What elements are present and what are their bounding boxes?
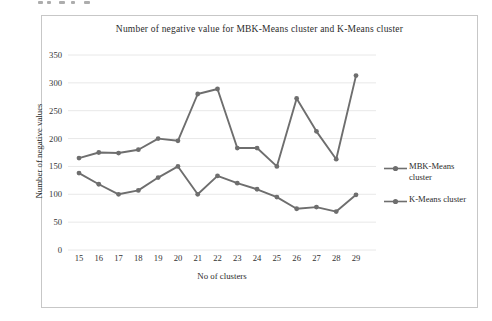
page: 0501001502002503003501516171819202122232…: [0, 0, 492, 321]
svg-text:50: 50: [53, 217, 62, 227]
svg-text:24: 24: [253, 253, 262, 263]
line-marker-icon: [384, 165, 407, 172]
svg-text:26: 26: [292, 253, 301, 263]
line-marker-icon: [384, 198, 407, 205]
svg-text:28: 28: [332, 253, 341, 263]
svg-text:19: 19: [154, 253, 163, 263]
svg-text:150: 150: [49, 161, 62, 171]
svg-text:20: 20: [174, 253, 183, 263]
svg-text:18: 18: [134, 253, 143, 263]
svg-text:17: 17: [114, 253, 123, 263]
svg-text:21: 21: [193, 253, 202, 263]
svg-text:27: 27: [312, 253, 321, 263]
svg-text:22: 22: [213, 253, 222, 263]
svg-text:350: 350: [49, 50, 62, 60]
svg-text:23: 23: [233, 253, 242, 263]
svg-text:200: 200: [49, 134, 62, 144]
chart-legend: MBK-Means cluster K-Means cluster: [384, 161, 478, 216]
svg-text:300: 300: [49, 78, 62, 88]
svg-text:15: 15: [75, 253, 84, 263]
legend-label: K-Means cluster: [409, 194, 477, 205]
svg-text:250: 250: [49, 106, 62, 116]
legend-label: MBK-Means cluster: [409, 161, 477, 183]
y-axis-title: Number of negative values: [34, 86, 44, 216]
svg-text:29: 29: [352, 253, 361, 263]
svg-text:100: 100: [49, 189, 62, 199]
svg-text:16: 16: [94, 253, 103, 263]
x-axis-title: No of clusters: [68, 271, 376, 281]
legend-item-mbk-means: MBK-Means cluster: [384, 161, 478, 183]
svg-text:0: 0: [58, 245, 62, 255]
legend-item-k-means: K-Means cluster: [384, 194, 478, 205]
chart-title: Number of negative value for MBK-Means c…: [41, 24, 478, 34]
svg-text:25: 25: [273, 253, 282, 263]
